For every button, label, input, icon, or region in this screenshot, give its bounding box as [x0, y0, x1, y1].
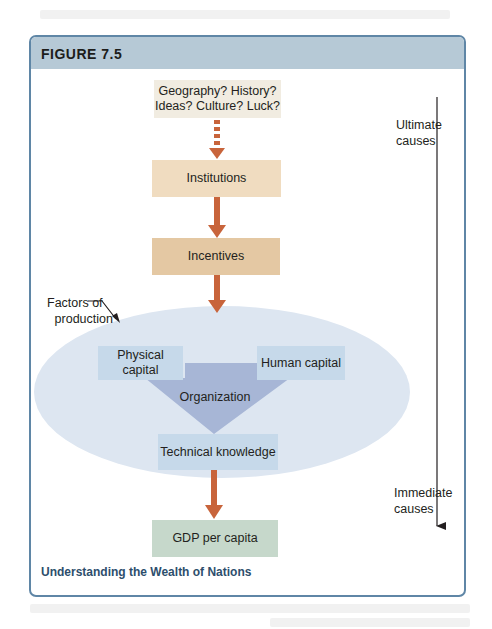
ultimate-causes-label: Ultimate causes [396, 117, 442, 149]
immediate-line1: Immediate [394, 485, 452, 501]
physical-capital-label: Physical capital [98, 348, 183, 378]
factors-line1: Factors of [47, 295, 103, 311]
incentives-label: Incentives [188, 249, 244, 264]
node-organization: Organization [165, 388, 265, 406]
dashed-arrow-to-institutions [209, 120, 225, 159]
node-human-capital: Human capital [257, 346, 345, 380]
node-incentives: Incentives [152, 238, 280, 275]
technical-knowledge-label: Technical knowledge [160, 445, 275, 460]
figure-caption: Understanding the Wealth of Nations [41, 565, 251, 579]
factors-of-production-label: Factors of production [47, 295, 121, 327]
organization-label: Organization [180, 390, 251, 405]
node-institutions: Institutions [152, 160, 281, 197]
node-technical-knowledge: Technical knowledge [158, 434, 278, 470]
institutions-label: Institutions [187, 171, 247, 186]
ultimate-line2: causes [396, 133, 442, 149]
human-capital-label: Human capital [261, 356, 341, 371]
factors-line2: production [47, 311, 121, 327]
ultimate-sources-line1: Geography? History? [158, 84, 276, 99]
node-ultimate-sources: Geography? History? Ideas? Culture? Luck… [154, 80, 281, 118]
arrow-institutions-to-incentives [208, 197, 226, 238]
node-physical-capital: Physical capital [98, 346, 183, 380]
immediate-line2: causes [394, 501, 452, 517]
immediate-causes-label: Immediate causes [394, 485, 452, 517]
ultimate-line1: Ultimate [396, 117, 442, 133]
gdp-per-capita-label: GDP per capita [172, 531, 257, 546]
ultimate-sources-line2: Ideas? Culture? Luck? [155, 99, 280, 114]
node-gdp-per-capita: GDP per capita [152, 520, 278, 557]
